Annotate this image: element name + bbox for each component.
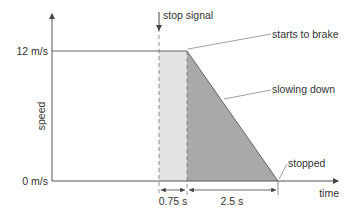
stop-signal-label: stop signal — [163, 9, 213, 21]
y-top-tick-label: 12 m/s — [16, 45, 48, 57]
y-bottom-tick-label: 0 m/s — [22, 175, 48, 187]
reaction-region — [159, 51, 187, 181]
y-axis-label: speed — [35, 102, 47, 131]
starts-to-brake-label: starts to brake — [272, 28, 339, 40]
starts-to-brake-leader — [188, 34, 271, 49]
slowing-down-label: slowing down — [272, 83, 335, 95]
reaction-duration-label: 0.75 s — [159, 195, 188, 207]
velocity-time-diagram: 12 m/s 0 m/s speed time stop signal star… — [0, 0, 359, 218]
stopped-leader — [279, 164, 287, 179]
slowing-down-leader — [224, 90, 271, 99]
x-axis-label: time — [319, 187, 339, 199]
braking-duration-label: 2.5 s — [221, 195, 244, 207]
stopped-label: stopped — [288, 157, 326, 169]
